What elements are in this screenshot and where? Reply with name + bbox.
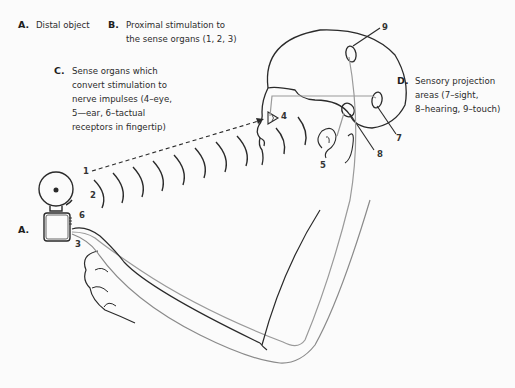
label-b-proximal-stimulation: B. Proximal stimulation to the sense org…: [108, 18, 278, 46]
arm-outline: [72, 210, 320, 350]
number-8: 8: [377, 149, 383, 159]
number-1: 1: [83, 166, 89, 176]
label-c-sense-organs: C. Sense organs which convert stimulatio…: [54, 64, 214, 134]
diagram-illustration: [0, 0, 515, 388]
number-3: 3: [75, 239, 81, 249]
number-6: 6: [79, 210, 85, 220]
number-4: 4: [281, 111, 287, 121]
bell-icon: [39, 172, 73, 241]
arm-lower-outline: [72, 200, 370, 363]
sensory-process-diagram: A. Distal object B. Proximal stimulation…: [0, 0, 515, 388]
number-9: 9: [382, 22, 388, 32]
number-7: 7: [396, 133, 402, 143]
number-2: 2: [90, 190, 96, 200]
object-marker-a: A.: [18, 224, 29, 235]
number-5: 5: [320, 160, 326, 170]
label-d-projection-areas: D. Sensory projection areas (7–sight, 8–…: [397, 74, 515, 116]
